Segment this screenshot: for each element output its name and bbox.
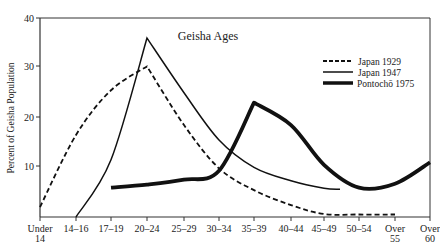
x-tick-label: 35–39 (242, 223, 267, 234)
x-tick-label: 50–54 (347, 223, 372, 234)
x-tick-label: 40–44 (279, 223, 304, 234)
x-tick-label: 60 (425, 233, 435, 244)
y-tick-label: 40 (24, 13, 34, 24)
legend-item-japan-1929: Japan 1929 (323, 57, 401, 67)
y-tick-label: 20 (24, 112, 34, 123)
x-tick-label: 20–24 (135, 223, 160, 234)
geisha-ages-chart: 10 20 30 40 Percent of Geisha Population… (0, 0, 440, 250)
x-tick-label: 25–29 (172, 223, 197, 234)
x-tick-label: 14–16 (64, 223, 89, 234)
y-axis-label: Percent of Geisha Population (6, 62, 16, 173)
y-tick-label: 30 (24, 61, 34, 72)
chart-title: Geisha Ages (178, 29, 239, 43)
y-tick-label: 10 (24, 161, 34, 172)
svg-text:Japan 1929: Japan 1929 (358, 57, 401, 67)
y-ticks: 10 20 30 40 (24, 13, 40, 172)
legend-item-japan-1947: Japan 1947 (323, 68, 401, 78)
svg-text:Japan 1947: Japan 1947 (358, 68, 401, 78)
legend-item-pontocho-1975: Pontochō 1975 (323, 79, 415, 89)
series-pontocho-1975-line (111, 103, 430, 189)
legend: Japan 1929 Japan 1947 Pontochō 1975 (323, 57, 415, 89)
series-japan-1947-line (76, 38, 340, 217)
x-tick-label: 30–34 (207, 223, 232, 234)
svg-text:Pontochō 1975: Pontochō 1975 (357, 79, 415, 89)
x-tick-label: 14 (35, 233, 45, 244)
x-tick-label: 17–19 (99, 223, 124, 234)
x-ticks: Under1414–1617–1920–2425–2930–3435–3940–… (28, 217, 440, 244)
x-tick-label: 45–49 (312, 223, 337, 234)
x-tick-label: 55 (390, 233, 400, 244)
